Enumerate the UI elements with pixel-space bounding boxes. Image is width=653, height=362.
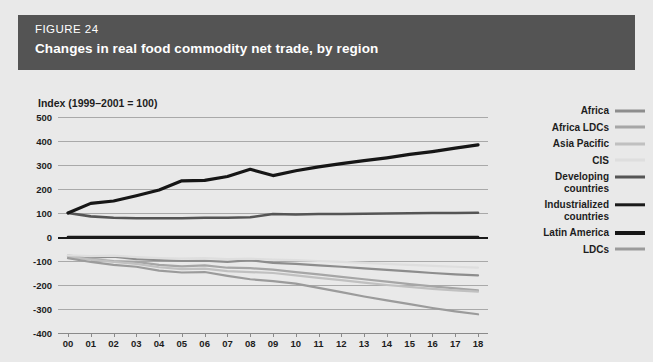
- y-tick-label: 100: [36, 208, 52, 219]
- x-axis-tick: [91, 333, 92, 337]
- x-tick-label: 03: [131, 338, 142, 349]
- legend-color-swatch: [615, 138, 645, 150]
- x-tick-label: 09: [268, 338, 279, 349]
- x-axis-line: [58, 333, 488, 334]
- legend-item[interactable]: Developing countries: [497, 171, 645, 194]
- x-tick-label: 11: [314, 338, 324, 349]
- legend-color-swatch: [615, 155, 645, 167]
- y-tick-label: 500: [36, 112, 52, 123]
- x-axis-tick: [205, 333, 206, 337]
- x-axis-tick: [273, 333, 274, 337]
- legend-item-label: Africa: [581, 105, 615, 117]
- x-tick-label: 05: [177, 338, 188, 349]
- figure-title: Changes in real food commodity net trade…: [35, 41, 378, 56]
- x-axis-tick: [478, 333, 479, 337]
- figure-header-banner: FIGURE 24 Changes in real food commodity…: [18, 15, 635, 70]
- legend-item[interactable]: Africa: [497, 105, 645, 117]
- y-tick-label: -300: [33, 304, 52, 315]
- legend-item[interactable]: CIS: [497, 155, 645, 167]
- x-tick-label: 02: [108, 338, 119, 349]
- legend-color-swatch: [615, 105, 645, 117]
- x-tick-label: 00: [63, 338, 74, 349]
- legend-item-label: CIS: [592, 155, 615, 167]
- x-tick-label: 07: [222, 338, 233, 349]
- legend-item-label: Asia Pacific: [553, 138, 615, 150]
- x-tick-label: 12: [336, 338, 347, 349]
- y-axis-title: Index (1999–2001 = 100): [38, 97, 157, 109]
- x-axis-tick: [227, 333, 228, 337]
- x-axis-tick: [114, 333, 115, 337]
- x-axis-tick: [296, 333, 297, 337]
- legend-item[interactable]: Asia Pacific: [497, 138, 645, 150]
- legend-color-swatch: [615, 227, 645, 239]
- legend-color-swatch: [615, 199, 645, 211]
- x-tick-label: 08: [245, 338, 256, 349]
- x-tick-label: 06: [199, 338, 210, 349]
- y-tick-label: 200: [36, 184, 52, 195]
- plot-area: [58, 117, 488, 333]
- legend-color-swatch: [615, 171, 645, 183]
- x-axis-tick: [182, 333, 183, 337]
- x-tick-label: 16: [427, 338, 438, 349]
- series-line: [68, 213, 478, 219]
- y-tick-label: 0: [47, 232, 52, 243]
- x-tick-label: 18: [473, 338, 484, 349]
- legend-item-label: Developing countries: [555, 171, 615, 194]
- x-tick-label: 04: [154, 338, 165, 349]
- legend-item[interactable]: LDCs: [497, 244, 645, 256]
- y-tick-label: -100: [33, 256, 52, 267]
- x-axis-tick: [432, 333, 433, 337]
- x-tick-label: 17: [450, 338, 461, 349]
- x-tick-label: 14: [382, 338, 393, 349]
- y-axis-tick-labels: 5004003002001000-100-200-300-400: [0, 117, 52, 333]
- series-lines: [58, 117, 488, 333]
- legend-item[interactable]: Latin America: [497, 227, 645, 239]
- chart-legend: AfricaAfrica LDCsAsia PacificCISDevelopi…: [497, 105, 645, 260]
- legend-item-label: Industrialized countries: [545, 199, 615, 222]
- x-axis-tick-labels: 00010203040506070809101112131415161718: [58, 338, 488, 352]
- series-line: [68, 258, 478, 314]
- x-axis-tick: [159, 333, 160, 337]
- x-tick-label: 10: [290, 338, 301, 349]
- x-axis-tick: [387, 333, 388, 337]
- legend-color-swatch: [615, 122, 645, 134]
- x-tick-label: 01: [85, 338, 96, 349]
- x-axis-tick: [410, 333, 411, 337]
- series-line: [68, 145, 478, 213]
- x-axis-tick: [455, 333, 456, 337]
- figure-number: FIGURE 24: [35, 23, 98, 35]
- x-axis-tick: [250, 333, 251, 337]
- y-tick-label: -400: [33, 328, 52, 339]
- y-tick-label: -200: [33, 280, 52, 291]
- x-tick-label: 15: [404, 338, 415, 349]
- legend-item[interactable]: Africa LDCs: [497, 122, 645, 134]
- x-axis-tick: [319, 333, 320, 337]
- legend-item-label: Africa LDCs: [552, 122, 615, 134]
- x-axis-tick: [341, 333, 342, 337]
- y-tick-label: 400: [36, 136, 52, 147]
- y-tick-label: 300: [36, 160, 52, 171]
- x-axis-tick: [136, 333, 137, 337]
- x-axis-tick: [364, 333, 365, 337]
- legend-item-label: Latin America: [543, 227, 615, 239]
- x-tick-label: 13: [359, 338, 370, 349]
- figure-root: FIGURE 24 Changes in real food commodity…: [0, 0, 653, 362]
- legend-color-swatch: [615, 244, 645, 256]
- x-axis-tick: [68, 333, 69, 337]
- legend-item-label: LDCs: [583, 244, 615, 256]
- legend-item[interactable]: Industrialized countries: [497, 199, 645, 222]
